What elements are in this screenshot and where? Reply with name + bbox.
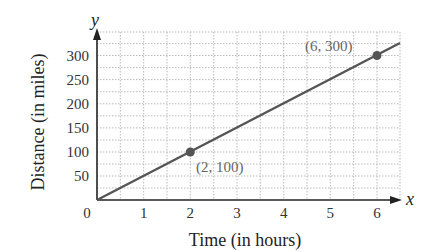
grid — [97, 32, 400, 200]
svg-text:1: 1 — [140, 205, 148, 221]
x-axis-variable: x — [405, 189, 414, 209]
point-label-2-100: (2, 100) — [196, 159, 244, 176]
point-label-6-300: (6, 300) — [305, 38, 353, 55]
svg-text:3: 3 — [233, 205, 241, 221]
x-tick-labels: 0 1 2 3 4 5 6 — [83, 205, 381, 221]
svg-text:100: 100 — [67, 144, 90, 160]
svg-text:200: 200 — [67, 96, 90, 112]
y-axis-variable: y — [89, 10, 99, 30]
svg-text:50: 50 — [74, 168, 89, 184]
chart: (2, 100) (6, 300) 300 250 200 150 100 50… — [0, 0, 434, 252]
svg-text:250: 250 — [67, 72, 90, 88]
point-6-300 — [373, 51, 382, 60]
y-axis-title: Distance (in miles) — [28, 54, 49, 191]
svg-text:0: 0 — [83, 205, 91, 221]
x-axis-title: Time (in hours) — [189, 230, 301, 251]
y-tick-labels: 300 250 200 150 100 50 — [67, 48, 90, 184]
svg-text:6: 6 — [373, 205, 381, 221]
svg-text:4: 4 — [280, 205, 288, 221]
svg-text:300: 300 — [67, 48, 90, 64]
point-2-100 — [186, 148, 195, 157]
svg-text:5: 5 — [327, 205, 335, 221]
svg-text:150: 150 — [67, 120, 90, 136]
svg-text:2: 2 — [187, 205, 195, 221]
